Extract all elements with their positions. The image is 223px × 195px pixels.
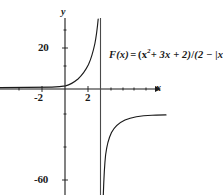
y-tick-label-20: 20 <box>38 42 49 53</box>
function-graph-figure: y x 20 -60 -2 2 F(x)=(x2+ 3x + 2)/(2 − |… <box>0 0 223 195</box>
curve-left-branch <box>0 19 98 88</box>
curve-right-branch <box>103 115 166 195</box>
formula-denominator: (2 − |x <box>194 49 223 60</box>
x-axis-label: x <box>156 83 161 93</box>
formula-numerator-open: (x <box>138 49 147 60</box>
formula-annotation: F(x)=(x2+ 3x + 2)/(2 − |x <box>109 47 223 60</box>
formula-equals: = <box>129 49 138 60</box>
formula-lhs: F(x) <box>109 49 129 60</box>
formula-numerator-rest: + 3x + 2) <box>151 49 191 60</box>
x-tick-label-minus-2: -2 <box>34 92 43 103</box>
x-tick-label-2: 2 <box>85 92 90 103</box>
y-axis-label: y <box>61 7 65 17</box>
y-tick-label-minus-60: -60 <box>34 174 48 185</box>
